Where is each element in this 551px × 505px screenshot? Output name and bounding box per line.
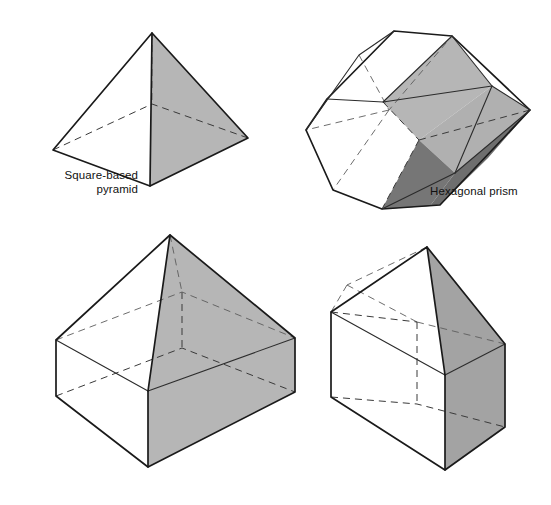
pyramid-face-right bbox=[150, 33, 248, 186]
label-hexagonal-prism: Hexagonal prism bbox=[430, 184, 550, 198]
shapes-canvas bbox=[0, 0, 551, 505]
geometry-figure: Square-based pyramid Hexagonal prism bbox=[0, 0, 551, 505]
shape-hexagonal-prism bbox=[306, 31, 530, 209]
label-square-based-pyramid: Square-based pyramid bbox=[26, 168, 138, 197]
shape-cuboid-with-pyramid bbox=[56, 235, 295, 467]
shape-cuboid-with-triangular-prism bbox=[331, 247, 505, 470]
pyramid-face-left bbox=[53, 33, 152, 186]
shape-square-based-pyramid bbox=[53, 33, 248, 186]
